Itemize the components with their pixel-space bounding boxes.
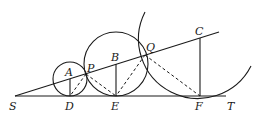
label-d: D bbox=[64, 100, 74, 113]
label-t: T bbox=[227, 100, 236, 113]
label-c: C bbox=[195, 25, 204, 38]
label-a: A bbox=[64, 66, 73, 79]
dashed-qe bbox=[116, 55, 145, 96]
label-q: Q bbox=[146, 41, 155, 54]
label-p: P bbox=[86, 62, 95, 75]
dashed-qf bbox=[145, 55, 200, 96]
line-sc bbox=[15, 32, 219, 96]
label-e: E bbox=[110, 100, 119, 113]
geometry-diagram: S A B C D E F P Q T bbox=[0, 0, 262, 120]
label-b: B bbox=[110, 51, 119, 64]
label-s: S bbox=[9, 100, 17, 113]
label-f: F bbox=[194, 100, 203, 113]
